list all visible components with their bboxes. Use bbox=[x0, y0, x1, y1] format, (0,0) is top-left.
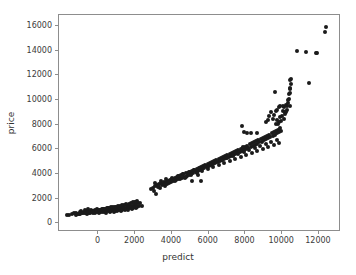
data-point bbox=[154, 192, 158, 196]
data-point bbox=[315, 51, 319, 55]
data-point bbox=[233, 157, 237, 161]
data-point bbox=[274, 122, 278, 126]
data-point bbox=[222, 161, 226, 165]
data-point bbox=[323, 30, 327, 34]
data-point bbox=[264, 120, 268, 124]
x-tick-label: 12000 bbox=[305, 236, 330, 245]
y-tick-mark bbox=[55, 124, 58, 125]
y-tick-label: 6000 bbox=[12, 144, 52, 153]
y-tick-mark bbox=[55, 148, 58, 149]
y-tick-label: 8000 bbox=[12, 119, 52, 128]
data-point bbox=[255, 131, 259, 135]
data-point bbox=[261, 147, 265, 151]
x-tick-label: 4000 bbox=[161, 236, 181, 245]
data-point bbox=[295, 49, 299, 53]
data-point bbox=[244, 153, 248, 157]
y-tick-mark bbox=[55, 50, 58, 51]
x-tick-label: 6000 bbox=[198, 236, 218, 245]
y-tick-label: 4000 bbox=[12, 169, 52, 178]
y-tick-mark bbox=[55, 74, 58, 75]
data-point bbox=[271, 117, 275, 121]
data-point bbox=[288, 86, 292, 90]
x-tick-label: 2000 bbox=[124, 236, 144, 245]
x-tick-mark bbox=[281, 231, 282, 234]
data-point bbox=[288, 104, 292, 108]
data-point bbox=[228, 159, 232, 163]
x-tick-mark bbox=[97, 231, 98, 234]
y-tick-label: 12000 bbox=[12, 70, 52, 79]
data-point bbox=[200, 169, 204, 173]
data-point bbox=[277, 141, 281, 145]
data-point bbox=[211, 165, 215, 169]
y-tick-label: 10000 bbox=[12, 95, 52, 104]
x-tick-mark bbox=[244, 231, 245, 234]
data-point bbox=[281, 104, 285, 108]
x-tick-mark bbox=[171, 231, 172, 234]
data-point bbox=[217, 163, 221, 167]
y-tick-mark bbox=[55, 198, 58, 199]
data-point bbox=[266, 145, 270, 149]
data-point bbox=[307, 81, 311, 85]
data-point bbox=[250, 151, 254, 155]
x-tick-mark bbox=[208, 231, 209, 234]
data-point bbox=[173, 179, 177, 183]
x-tick-label: 8000 bbox=[234, 236, 254, 245]
scatter-plot-figure: price 0200040006000800010000120001400016… bbox=[0, 0, 356, 275]
data-point bbox=[183, 176, 187, 180]
data-point bbox=[140, 204, 144, 208]
y-tick-label: 14000 bbox=[12, 45, 52, 54]
y-tick-label: 16000 bbox=[12, 21, 52, 30]
data-point bbox=[249, 131, 253, 135]
y-tick-mark bbox=[55, 173, 58, 174]
data-point bbox=[324, 25, 328, 29]
y-tick-mark bbox=[55, 99, 58, 100]
y-tick-label: 2000 bbox=[12, 193, 52, 202]
x-tick-mark bbox=[134, 231, 135, 234]
data-point bbox=[239, 155, 243, 159]
data-point bbox=[273, 90, 277, 94]
data-point bbox=[240, 124, 244, 128]
data-point bbox=[178, 177, 182, 181]
y-tick-label: 0 bbox=[12, 218, 52, 227]
y-tick-mark bbox=[55, 222, 58, 223]
plot-area bbox=[58, 14, 340, 231]
data-point bbox=[283, 112, 287, 116]
data-point bbox=[287, 92, 291, 96]
data-points-layer bbox=[59, 15, 339, 230]
data-point bbox=[74, 213, 78, 217]
data-point bbox=[206, 167, 210, 171]
x-axis-label: predict bbox=[0, 252, 356, 262]
x-tick-label: 10000 bbox=[268, 236, 293, 245]
data-point bbox=[304, 50, 308, 54]
data-point bbox=[189, 173, 193, 177]
data-point bbox=[272, 143, 276, 147]
data-point bbox=[199, 179, 203, 183]
data-point bbox=[190, 179, 194, 183]
y-tick-mark bbox=[55, 25, 58, 26]
data-point bbox=[255, 149, 259, 153]
data-point bbox=[196, 173, 200, 177]
data-point bbox=[156, 184, 160, 188]
x-tick-mark bbox=[318, 231, 319, 234]
x-axis-label-text: predict bbox=[162, 252, 193, 262]
data-point bbox=[279, 129, 283, 133]
x-tick-label: 0 bbox=[95, 236, 100, 245]
data-point bbox=[162, 182, 166, 186]
data-point bbox=[241, 145, 245, 149]
